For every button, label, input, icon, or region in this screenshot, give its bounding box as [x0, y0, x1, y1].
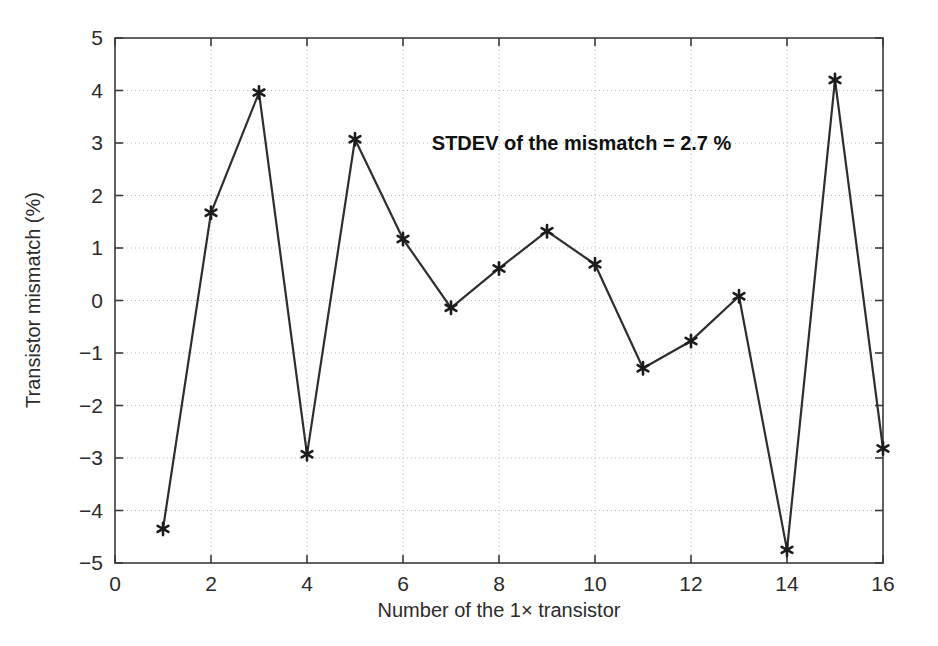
x-tick-label: 2: [205, 572, 217, 595]
y-tick-label: −5: [79, 551, 103, 574]
y-tick-label: 2: [91, 184, 103, 207]
x-tick-label: 4: [301, 572, 313, 595]
figure-canvas: 0246810121416 543210−1−2−3−4−5 STDEV of …: [0, 0, 938, 646]
y-tick-label: 3: [91, 131, 103, 154]
x-tick-label: 0: [109, 572, 121, 595]
chart-background: [0, 0, 938, 646]
x-axis-title: Number of the 1× transistor: [378, 599, 621, 621]
y-axis-title: Transistor mismatch (%): [22, 192, 44, 408]
x-tick-label: 6: [397, 572, 409, 595]
y-tick-label: 5: [91, 26, 103, 49]
stdev-annotation: STDEV of the mismatch = 2.7 %: [432, 132, 732, 154]
y-tick-label: −2: [79, 394, 103, 417]
x-tick-label: 16: [871, 572, 894, 595]
y-tick-label: 1: [91, 236, 103, 259]
x-tick-label: 12: [679, 572, 702, 595]
y-tick-label: −4: [79, 499, 103, 522]
mismatch-line-chart: 0246810121416 543210−1−2−3−4−5 STDEV of …: [0, 0, 938, 646]
x-tick-label: 10: [583, 572, 606, 595]
y-tick-label: 4: [91, 79, 103, 102]
y-tick-label: −3: [79, 446, 103, 469]
y-tick-label: 0: [91, 289, 103, 312]
x-tick-label: 14: [775, 572, 799, 595]
x-tick-label: 8: [493, 572, 505, 595]
y-tick-label: −1: [79, 341, 103, 364]
